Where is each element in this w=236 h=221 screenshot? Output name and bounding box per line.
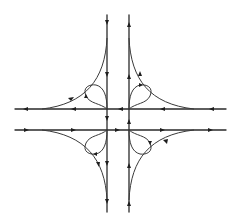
loop-arrow-icon (84, 94, 88, 98)
arrow-up-icon (127, 74, 131, 79)
arrow-left-icon (209, 107, 214, 111)
ramp-arrow-icon (138, 71, 142, 76)
arrow-left-icon (71, 107, 76, 111)
ne-loop (129, 85, 151, 109)
arrow-down-icon (105, 199, 109, 204)
arrow-down-icon (105, 161, 109, 166)
arrow-down-icon (105, 116, 109, 121)
arrow-down-icon (105, 72, 109, 77)
ne-outer-ramp (129, 38, 194, 109)
loop-arrow-icon (148, 141, 152, 145)
sw-outer-ramp (42, 130, 107, 200)
arrow-up-icon (127, 163, 131, 168)
arrow-left-icon (118, 107, 123, 111)
arrow-left-icon (23, 107, 28, 111)
arrow-up-icon (127, 119, 131, 124)
arrow-up-icon (127, 201, 131, 206)
nw-outer-ramp (42, 38, 107, 109)
arrow-right-icon (24, 128, 29, 132)
ramp-arrow-icon (163, 139, 168, 144)
arrow-right-icon (115, 128, 120, 132)
arrow-right-icon (208, 128, 213, 132)
se-outer-ramp (129, 130, 194, 200)
arrow-down-icon (105, 20, 109, 25)
cloverleaf-interchange-diagram (0, 0, 236, 221)
arrow-right-icon (160, 128, 165, 132)
arrow-right-icon (71, 128, 76, 132)
arrow-left-icon (160, 107, 165, 111)
loop-arrow-icon (93, 152, 97, 156)
arrow-up-icon (127, 22, 131, 27)
se-loop (129, 130, 151, 154)
